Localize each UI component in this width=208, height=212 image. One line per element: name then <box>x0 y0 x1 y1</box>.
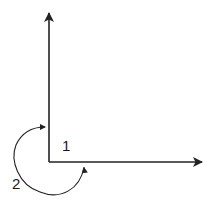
axes-diagram <box>0 0 208 212</box>
diagram-canvas: 1 2 <box>0 0 208 212</box>
angle-label-1: 1 <box>62 138 70 153</box>
angle-label-2: 2 <box>12 176 20 191</box>
